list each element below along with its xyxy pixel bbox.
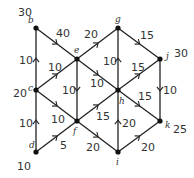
weight-g-j: 15	[140, 30, 154, 41]
weight-d-f: 5	[60, 140, 67, 151]
node-value-k: 25	[173, 124, 187, 135]
node-value-d: 10	[17, 161, 31, 172]
weight-f-h: 15	[96, 111, 110, 122]
weight-b-e: 40	[56, 28, 70, 39]
node-label-k: k	[165, 121, 170, 130]
node-c	[33, 87, 38, 92]
node-value-c: 20	[13, 88, 27, 99]
node-label-j: j	[166, 52, 169, 61]
node-label-d: d	[29, 141, 35, 150]
node-value-j: 30	[174, 48, 188, 59]
weight-c-b: 10	[19, 55, 33, 66]
node-f	[74, 118, 79, 123]
node-label-f: f	[73, 127, 76, 136]
node-e	[74, 56, 79, 61]
node-d	[33, 149, 38, 154]
weight-d-c: 10	[19, 118, 33, 129]
weight-i-k: 20	[141, 142, 155, 153]
weight-j-k: 10	[163, 85, 177, 96]
weight-h-g: 10	[103, 56, 117, 67]
node-g	[115, 25, 120, 30]
weight-h-j: 15	[131, 62, 145, 73]
node-label-g: g	[115, 15, 121, 24]
weight-e-f: 10	[62, 85, 76, 96]
weight-h-k: 15	[138, 91, 152, 102]
weight-c-e: 10	[48, 62, 62, 73]
weight-e-h: 10	[90, 78, 104, 89]
weight-c-f: 10	[51, 114, 65, 125]
node-k	[157, 118, 162, 123]
node-label-c: c	[28, 84, 33, 93]
node-value-b: 30	[18, 7, 32, 18]
weight-e-g: 20	[84, 29, 98, 40]
node-i	[115, 149, 120, 154]
node-j	[157, 56, 162, 61]
node-label-h: h	[119, 97, 125, 106]
weight-i-h: 20	[122, 118, 136, 129]
node-h	[115, 87, 120, 92]
node-label-e: e	[74, 46, 79, 55]
weight-f-i: 20	[86, 142, 100, 153]
node-b	[33, 25, 38, 30]
node-label-i: i	[116, 158, 119, 167]
